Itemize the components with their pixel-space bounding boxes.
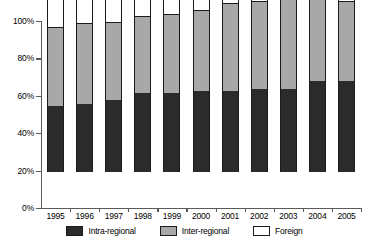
bar-segment-intra (339, 81, 354, 172)
y-tick-mark (36, 96, 41, 97)
bar-segment-intra (135, 93, 150, 172)
legend-label: Foreign (275, 226, 302, 236)
x-tick-mark (361, 208, 362, 212)
y-tick-mark (36, 208, 41, 209)
bar-segment-intra (77, 104, 92, 172)
stacked-bar[interactable] (280, 0, 297, 172)
bar-segment-intra (194, 91, 209, 172)
bar-segment-inter (339, 1, 354, 81)
bars-layer (0, 0, 369, 215)
bar-group[interactable] (251, 0, 268, 215)
legend-item[interactable]: Intra-regional (66, 226, 135, 236)
bar-segment-inter (106, 22, 121, 101)
bar-segment-intra (223, 91, 238, 172)
bar-segment-inter (223, 3, 238, 91)
stacked-bar[interactable] (338, 0, 355, 172)
stacked-bar[interactable] (163, 0, 180, 172)
x-tick-label: 2000 (186, 211, 215, 221)
legend-item[interactable]: Foreign (253, 226, 302, 236)
stacked-bar[interactable] (76, 0, 93, 172)
x-tick-label: 1996 (70, 211, 99, 221)
bar-group[interactable] (222, 0, 239, 215)
legend-swatch-icon (160, 226, 177, 236)
bar-group[interactable] (193, 0, 210, 215)
stacked-bar[interactable] (134, 0, 151, 172)
bar-segment-inter (310, 0, 325, 81)
bar-segment-inter (135, 16, 150, 93)
plot-area: 0%20%40%60%80%100% 199519961997199819992… (0, 0, 369, 215)
bar-group[interactable] (105, 0, 122, 215)
bar-segment-foreign (48, 0, 63, 27)
stacked-bar[interactable] (193, 0, 210, 172)
bar-segment-inter (48, 27, 63, 106)
bar-segment-foreign (77, 0, 92, 23)
bar-group[interactable] (163, 0, 180, 215)
bar-segment-foreign (194, 0, 209, 10)
stacked-bar[interactable] (47, 0, 64, 172)
chart-container: 0%20%40%60%80%100% 199519961997199819992… (0, 0, 369, 251)
stacked-bar[interactable] (251, 0, 268, 172)
stacked-bar[interactable] (222, 0, 239, 172)
legend-swatch-icon (253, 226, 270, 236)
x-tick-label: 2003 (274, 211, 303, 221)
bar-segment-intra (48, 106, 63, 172)
bar-segment-inter (281, 0, 296, 89)
chart-legend: Intra-regionalInter-regionalForeign (0, 226, 369, 236)
bar-segment-inter (77, 23, 92, 103)
y-tick-mark (36, 58, 41, 59)
bar-segment-intra (310, 81, 325, 172)
bar-segment-intra (252, 89, 267, 172)
bar-segment-intra (281, 89, 296, 172)
x-tick-label: 2002 (245, 211, 274, 221)
bar-group[interactable] (338, 0, 355, 215)
y-tick-mark (36, 171, 41, 172)
bar-group[interactable] (134, 0, 151, 215)
y-tick-mark (36, 21, 41, 22)
legend-label: Inter-regional (182, 226, 229, 236)
bar-segment-inter (252, 1, 267, 89)
stacked-bar[interactable] (105, 0, 122, 172)
y-tick-mark (36, 133, 41, 134)
x-tick-label: 2005 (332, 211, 361, 221)
bar-segment-intra (106, 100, 121, 172)
bar-segment-inter (194, 10, 209, 90)
bar-segment-intra (164, 93, 179, 172)
bar-group[interactable] (76, 0, 93, 215)
x-tick-label: 1995 (41, 211, 70, 221)
bar-group[interactable] (47, 0, 64, 215)
x-tick-label: 2004 (303, 211, 332, 221)
bar-segment-foreign (106, 0, 121, 22)
x-tick-label: 1999 (157, 211, 186, 221)
bar-group[interactable] (280, 0, 297, 215)
legend-item[interactable]: Inter-regional (160, 226, 229, 236)
x-tick-label: 1997 (99, 211, 128, 221)
stacked-bar[interactable] (309, 0, 326, 172)
bar-segment-foreign (135, 0, 150, 16)
legend-swatch-icon (66, 226, 83, 236)
legend-label: Intra-regional (88, 226, 135, 236)
bar-segment-inter (164, 14, 179, 93)
bar-group[interactable] (309, 0, 326, 215)
bar-segment-foreign (164, 0, 179, 14)
x-tick-label: 1998 (128, 211, 157, 221)
x-tick-label: 2001 (216, 211, 245, 221)
